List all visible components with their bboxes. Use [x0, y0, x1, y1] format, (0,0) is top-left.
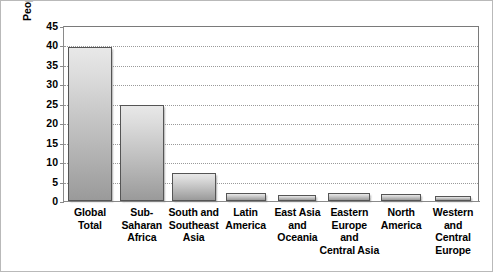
bars-group	[64, 27, 478, 201]
bar-chart-figure: People with AIDS (millions) 051015202530…	[0, 0, 493, 272]
bar	[226, 193, 266, 201]
x-axis-category-label-line: Central	[420, 231, 486, 244]
bar	[435, 196, 471, 201]
x-axis-line	[63, 201, 480, 202]
y-axis-tick-label: 30	[46, 79, 58, 89]
y-axis-title: People with AIDS (millions)	[19, 0, 35, 42]
x-axis-category-label-line: Europe	[420, 244, 486, 257]
y-axis-tick-label: 15	[46, 138, 58, 148]
y-axis-tick-label: 45	[46, 21, 58, 31]
y-axis-tick-label: 40	[46, 40, 58, 50]
y-axis-tick-mark	[60, 202, 64, 203]
bar	[120, 105, 164, 201]
bar	[172, 173, 216, 201]
x-axis-category-label-line: Asia	[161, 231, 227, 244]
x-axis-category-label: WesternandCentralEurope	[420, 206, 486, 256]
y-axis-tick-label: 5	[52, 177, 58, 187]
y-axis-tick-label: 25	[46, 99, 58, 109]
x-axis-category-labels: GlobalTotalSub-SaharanAfricaSouth andSou…	[64, 206, 479, 272]
x-axis-category-label-line: and	[420, 219, 486, 232]
bar	[68, 47, 112, 201]
y-axis-tick-labels: 051015202530354045	[37, 26, 61, 201]
y-axis-tick-label: 35	[46, 60, 58, 70]
bar	[381, 194, 421, 201]
x-axis-category-label-line: Western	[420, 206, 486, 219]
plot-area	[64, 26, 479, 201]
y-axis-tick-label: 10	[46, 157, 58, 167]
bar	[328, 193, 370, 201]
x-axis-category-label-line: Central Asia	[316, 244, 382, 257]
y-axis-tick-label: 0	[52, 196, 58, 206]
bar	[278, 195, 316, 201]
x-axis-category-label-line: and	[316, 231, 382, 244]
y-axis-tick-label: 20	[46, 118, 58, 128]
